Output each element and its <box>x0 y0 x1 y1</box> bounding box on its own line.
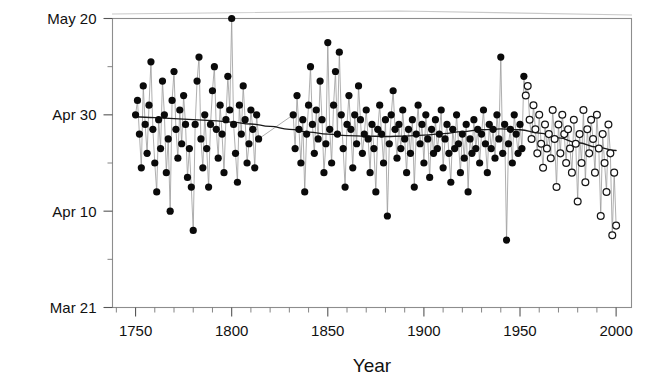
y-axis-tick-label: May 20 <box>47 10 96 27</box>
data-point-open <box>599 131 606 138</box>
data-point-filled <box>463 121 470 128</box>
data-point-filled <box>215 155 222 162</box>
data-point-filled <box>480 106 487 113</box>
data-point-filled <box>407 150 414 157</box>
data-point-open <box>580 107 587 114</box>
data-point-filled <box>428 126 435 133</box>
data-point-filled <box>297 159 304 166</box>
data-point-filled <box>405 126 412 133</box>
x-axis-tick-label: 1850 <box>311 322 344 339</box>
data-point-open <box>609 232 616 239</box>
x-axis-tick-labels: 175018001850190019502000 <box>119 322 633 339</box>
data-point-filled <box>443 121 450 128</box>
figure-container: May 20Apr 30Apr 10Mar 21 175018001850190… <box>0 0 667 392</box>
data-point-open <box>586 150 593 157</box>
data-point-filled <box>447 179 454 186</box>
data-point-filled <box>440 164 447 171</box>
data-point-open <box>603 189 610 196</box>
data-point-filled <box>220 169 227 176</box>
data-point-filled <box>180 92 187 99</box>
data-point-filled <box>243 159 250 166</box>
data-point-filled <box>472 145 479 152</box>
data-point-filled <box>217 102 224 109</box>
data-point-filled <box>507 126 514 133</box>
data-point-filled <box>301 188 308 195</box>
data-point-filled <box>247 106 254 113</box>
data-point-filled <box>203 145 210 152</box>
data-point-filled <box>438 106 445 113</box>
data-point-filled <box>461 155 468 162</box>
data-point-open <box>547 155 554 162</box>
data-point-filled <box>484 169 491 176</box>
data-point-filled <box>345 92 352 99</box>
data-point-filled <box>457 169 464 176</box>
data-point-filled <box>178 140 185 147</box>
data-point-filled <box>207 121 214 128</box>
data-point-filled <box>157 145 164 152</box>
data-point-filled <box>144 150 151 157</box>
data-point-filled <box>167 208 174 215</box>
data-point-filled <box>232 150 239 157</box>
data-point-filled <box>218 131 225 138</box>
data-point-filled <box>311 150 318 157</box>
data-point-filled <box>493 111 500 118</box>
data-point-filled <box>465 188 472 195</box>
data-point-open <box>557 150 564 157</box>
data-point-open <box>545 131 552 138</box>
data-point-open <box>526 116 533 123</box>
data-point-filled <box>222 116 229 123</box>
data-point-filled <box>365 135 372 142</box>
data-point-filled <box>370 145 377 152</box>
data-point-filled <box>292 145 299 152</box>
data-point-filled <box>505 140 512 147</box>
data-point-open <box>555 121 562 128</box>
y-axis-ticks <box>104 19 113 308</box>
data-point-filled <box>355 82 362 89</box>
data-point-filled <box>211 63 218 70</box>
data-point-filled <box>153 188 160 195</box>
data-point-filled <box>313 106 320 113</box>
data-point-markers <box>132 15 620 244</box>
data-point-filled <box>328 159 335 166</box>
data-point-open <box>559 111 566 118</box>
data-point-filled <box>384 212 391 219</box>
y-axis-tick-label: Mar 21 <box>50 299 97 316</box>
data-point-filled <box>186 145 193 152</box>
data-point-filled <box>476 159 483 166</box>
data-point-filled <box>165 135 172 142</box>
data-point-filled <box>399 106 406 113</box>
scan-artifact-line <box>112 11 632 15</box>
data-point-filled <box>192 121 199 128</box>
data-point-filled <box>516 121 523 128</box>
data-point-filled <box>132 111 139 118</box>
data-point-filled <box>424 135 431 142</box>
data-point-open <box>534 150 541 157</box>
data-point-filled <box>255 135 262 142</box>
data-point-filled <box>161 111 168 118</box>
data-point-filled <box>228 15 235 22</box>
data-point-open <box>567 145 574 152</box>
data-point-filled <box>415 102 422 109</box>
data-point-filled <box>142 121 149 128</box>
data-point-filled <box>341 183 348 190</box>
data-point-open <box>522 92 529 99</box>
data-point-filled <box>330 102 337 109</box>
data-point-open <box>588 116 595 123</box>
data-point-filled <box>416 140 423 147</box>
data-point-open <box>592 169 599 176</box>
data-point-filled <box>393 155 400 162</box>
data-point-filled <box>520 73 527 80</box>
data-point-filled <box>411 183 418 190</box>
data-point-open <box>569 169 576 176</box>
data-point-open <box>540 164 547 171</box>
data-point-filled <box>359 150 366 157</box>
data-point-filled <box>386 140 393 147</box>
data-point-filled <box>432 116 439 123</box>
data-point-filled <box>409 116 416 123</box>
data-point-filled <box>293 92 300 99</box>
data-point-filled <box>209 87 216 94</box>
data-point-open <box>528 136 535 143</box>
data-point-open <box>578 160 585 167</box>
data-point-filled <box>315 135 322 142</box>
data-point-filled <box>413 131 420 138</box>
